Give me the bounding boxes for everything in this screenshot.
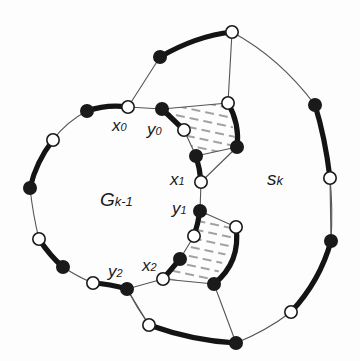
node-outer-black [154,51,166,63]
node-outer-black [24,182,36,194]
label-outer-region: sk [267,168,283,190]
node-outer-white [324,172,336,184]
node-face-white [230,221,242,233]
label-x1: x1 [170,170,185,190]
node-outer-black [230,337,242,349]
label-x2: x2 [142,256,157,276]
node-x2 [157,273,169,285]
node-outer-white [47,134,59,146]
node-y1 [194,205,206,217]
node-outer-black [57,261,69,273]
label-y0: y0 [147,120,162,140]
figure-root: x0 y0 x1 y1 x2 y2 Gk-1 sk [0,0,360,361]
node-inner-black [190,150,202,162]
node-outer-white [226,26,238,38]
hatched-faces [162,103,237,284]
label-y1: y1 [172,199,187,219]
connector-edges [127,32,331,343]
node-x1 [195,176,207,188]
hatched-face-upper [162,103,237,156]
node-outer-white [122,101,134,113]
node-outer-white [33,233,45,245]
node-outer-black [325,235,337,247]
node-inner-black [174,253,186,265]
node-inner-white [188,230,200,242]
node-y0 [156,103,168,115]
label-inner-region: Gk-1 [100,189,133,211]
label-y2: y2 [108,262,123,282]
node-outer-black [121,283,133,295]
node-outer-white [87,277,99,289]
node-face-black [231,141,243,153]
node-outer-black [81,105,93,117]
node-outer-white [285,306,297,318]
node-face-black [208,278,220,290]
label-x0: x0 [112,116,127,136]
node-face-white [222,97,234,109]
node-outer-black [309,99,321,111]
node-outer-white [143,319,155,331]
node-inner-white [178,124,190,136]
